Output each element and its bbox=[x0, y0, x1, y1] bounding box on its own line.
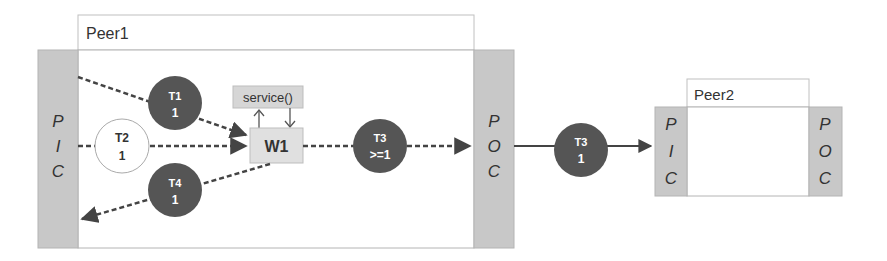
worker-w1-label: W1 bbox=[265, 138, 289, 155]
token-t4-count: 1 bbox=[172, 193, 179, 207]
peer1-title: Peer1 bbox=[86, 25, 129, 42]
peer2-pic-c: C bbox=[665, 169, 678, 188]
token-t2-count: 1 bbox=[119, 149, 126, 163]
peer2-pic-i: I bbox=[669, 142, 674, 161]
token-t3-external: T3 1 bbox=[554, 123, 608, 177]
token-t2: T2 1 bbox=[95, 119, 149, 173]
service-label: service() bbox=[243, 90, 293, 105]
peer1-pic-i: I bbox=[56, 137, 61, 156]
peer1-poc-c: C bbox=[488, 162, 501, 181]
token-t2-id: T2 bbox=[115, 131, 129, 145]
token-t3-internal: T3 >=1 bbox=[353, 119, 407, 173]
peer2-pic-p: P bbox=[665, 115, 677, 134]
token-t3-external-id: T3 bbox=[575, 136, 588, 148]
token-t4-id: T4 bbox=[169, 177, 183, 189]
token-t1-count: 1 bbox=[172, 106, 179, 120]
peer1-pic-c: C bbox=[52, 162, 65, 181]
peer1-header bbox=[78, 15, 474, 50]
peer1-poc-p: P bbox=[488, 112, 500, 131]
peer2-title: Peer2 bbox=[694, 86, 734, 103]
token-t4: T4 1 bbox=[148, 163, 202, 217]
token-t3-internal-count: >=1 bbox=[370, 148, 391, 162]
diagram-canvas: Peer1 P I C P O C service() W1 T1 1 T2 1… bbox=[0, 0, 887, 261]
peer2-poc-c: C bbox=[819, 169, 832, 188]
peer1-poc-o: O bbox=[487, 137, 500, 156]
token-t1-id: T1 bbox=[169, 90, 182, 102]
token-t1: T1 1 bbox=[148, 76, 202, 130]
peer2-poc-o: O bbox=[818, 142, 831, 161]
peer2-node: Peer2 P I C P O C bbox=[655, 79, 842, 196]
token-t3-internal-id: T3 bbox=[374, 132, 387, 144]
peer2-body bbox=[687, 107, 809, 196]
token-t3-external-count: 1 bbox=[578, 152, 585, 166]
peer1-pic-p: P bbox=[52, 112, 64, 131]
peer2-poc-p: P bbox=[819, 115, 831, 134]
